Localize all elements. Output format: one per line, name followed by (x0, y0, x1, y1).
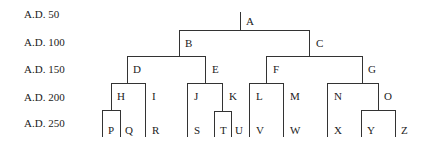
node-b: B (185, 38, 192, 49)
node-a: A (246, 16, 254, 27)
node-m: M (290, 91, 300, 102)
genealogy-tree-diagram: A.D. 50 A.D. 100 A.D. 150 A.D. 200 A.D. … (0, 0, 430, 148)
node-g: G (368, 64, 376, 75)
node-w: W (290, 125, 300, 136)
node-u: U (235, 125, 243, 136)
node-y: Y (367, 125, 375, 136)
node-f: F (273, 64, 279, 75)
node-s: S (194, 125, 200, 136)
node-n: N (334, 91, 342, 102)
node-z: Z (401, 125, 408, 136)
node-x: X (334, 125, 342, 136)
node-k: K (229, 91, 237, 102)
node-d: D (133, 64, 141, 75)
node-i: I (152, 91, 156, 102)
node-v: V (256, 125, 264, 136)
node-q: Q (125, 125, 133, 136)
node-t: T (220, 125, 227, 136)
node-r: R (152, 125, 159, 136)
node-h: H (117, 91, 125, 102)
node-e: E (212, 64, 219, 75)
node-l: L (256, 91, 263, 102)
node-o: O (384, 91, 392, 102)
node-j: J (194, 91, 198, 102)
node-c: C (316, 38, 323, 49)
node-p: P (108, 125, 114, 136)
